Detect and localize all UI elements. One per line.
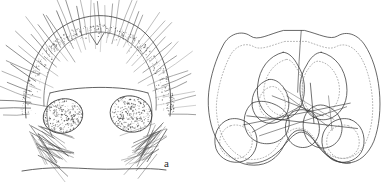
dorsal-right-lobe-dotted (302, 61, 339, 115)
ventral-left-lobe-dotted (220, 125, 253, 158)
panel-b-drawing (196, 0, 392, 189)
inner-left-curl-dotted (259, 87, 285, 119)
ventral-left-lobe-outline (215, 119, 257, 163)
left-eye-outline (39, 94, 88, 139)
mid-left-lobe-outline (244, 101, 289, 143)
ventral-right-lobe-dotted (327, 125, 360, 158)
median-notch (90, 33, 104, 45)
figure-container: a (0, 0, 392, 189)
left-eye-stippling (43, 98, 83, 133)
median-suture (298, 31, 302, 93)
clypeus-upper-margin (50, 87, 148, 93)
marginal-setae-group (0, 0, 196, 115)
ventral-margin (247, 132, 350, 163)
panel-a-label: a (164, 158, 169, 169)
panel-a: a (0, 0, 196, 189)
panel-b: b (196, 0, 392, 189)
lower-left-setae-group (30, 125, 75, 182)
